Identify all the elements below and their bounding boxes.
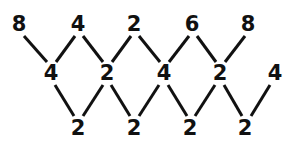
number-node-m0: 4 xyxy=(44,63,59,84)
lattice-edge xyxy=(24,36,47,62)
lattice-edge xyxy=(195,85,215,116)
lattice-edge xyxy=(251,85,270,116)
lattice-edge xyxy=(139,85,159,116)
number-node-b3: 2 xyxy=(238,118,253,139)
number-node-b2: 2 xyxy=(183,118,198,139)
number-node-t4: 8 xyxy=(241,14,256,35)
lattice-edge xyxy=(168,85,187,116)
number-node-m3: 2 xyxy=(213,63,228,84)
lattice-edge xyxy=(112,36,131,62)
edge-group xyxy=(24,36,270,116)
lattice-edge xyxy=(169,36,189,62)
lattice-edge xyxy=(83,85,103,116)
lattice-edge xyxy=(56,36,75,62)
number-node-m4: 4 xyxy=(268,63,283,84)
number-node-b0: 2 xyxy=(71,118,86,139)
number-node-m2: 4 xyxy=(157,63,172,84)
number-node-t2: 2 xyxy=(127,14,142,35)
lattice-edge xyxy=(83,36,103,62)
lattice-edge xyxy=(224,85,242,116)
lattice-edge xyxy=(55,85,74,116)
lattice-edge xyxy=(197,36,216,62)
number-node-m1: 2 xyxy=(100,63,115,84)
lattice-edge xyxy=(225,36,245,62)
lattice-edge xyxy=(139,36,160,62)
number-node-b1: 2 xyxy=(127,118,142,139)
number-node-t0: 8 xyxy=(12,14,27,35)
lattice-edge xyxy=(111,85,130,116)
number-node-t3: 6 xyxy=(185,14,200,35)
zigzag-number-lattice-diagram: 84268424242222 xyxy=(0,0,295,145)
number-node-t1: 4 xyxy=(71,14,86,35)
